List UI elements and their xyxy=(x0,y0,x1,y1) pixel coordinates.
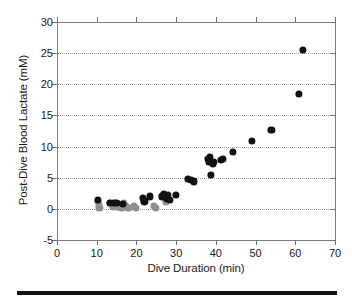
scatter-plot-figure: Post-Dive Blood Lactate (mM) Dive Durati… xyxy=(0,0,352,306)
plot-area xyxy=(57,22,335,240)
x-tick-label-0: 0 xyxy=(37,248,77,259)
x-tick-mark-10 xyxy=(97,240,98,245)
y-tick-label-15: 15 xyxy=(13,110,53,121)
data-point xyxy=(190,178,197,185)
y-tick-label-10: 10 xyxy=(13,142,53,153)
data-point xyxy=(248,137,255,144)
y-tick-label-20: 20 xyxy=(13,79,53,90)
x-tick-mark-50 xyxy=(256,240,257,245)
x-axis-title: Dive Duration (min) xyxy=(57,262,335,274)
x-tick-mark-0 xyxy=(57,240,58,245)
y-tick-mark-right-30 xyxy=(331,22,336,23)
x-tick-mark-20 xyxy=(136,240,137,245)
x-tick-label-60: 60 xyxy=(275,248,315,259)
data-point xyxy=(296,90,303,97)
x-tick-mark-top-30 xyxy=(176,17,177,22)
data-point xyxy=(152,204,159,211)
y-tick-mark-right-10 xyxy=(331,147,336,148)
data-point xyxy=(172,191,179,198)
y-tick-mark-right-15 xyxy=(331,115,336,116)
y-tick-label-5: 5 xyxy=(13,173,53,184)
x-tick-mark-top-0 xyxy=(57,17,58,22)
data-point xyxy=(146,193,153,200)
y-tick-label-0: 0 xyxy=(13,204,53,215)
gridline-y-10 xyxy=(57,147,335,148)
y-tick-mark-right-0 xyxy=(331,209,336,210)
gridline-y-30 xyxy=(57,22,335,23)
y-tick-mark-right-25 xyxy=(331,53,336,54)
y-tick-mark-right-5 xyxy=(331,178,336,179)
x-tick-mark-top-40 xyxy=(216,17,217,22)
gridline-y-20 xyxy=(57,84,335,85)
data-point xyxy=(96,204,103,211)
y-tick-label-25: 25 xyxy=(13,48,53,59)
gridline-y-15 xyxy=(57,115,335,116)
x-tick-label-40: 40 xyxy=(196,248,236,259)
x-axis-line xyxy=(56,240,336,241)
data-point xyxy=(229,148,236,155)
gridline-y-25 xyxy=(57,53,335,54)
y-tick-label--5: -5 xyxy=(13,235,53,246)
x-tick-mark-top-60 xyxy=(295,17,296,22)
data-point xyxy=(132,204,139,211)
data-point xyxy=(166,197,173,204)
x-tick-mark-top-20 xyxy=(136,17,137,22)
x-tick-mark-30 xyxy=(176,240,177,245)
x-tick-label-50: 50 xyxy=(236,248,276,259)
x-tick-mark-top-10 xyxy=(97,17,98,22)
x-tick-mark-60 xyxy=(295,240,296,245)
x-tick-mark-top-70 xyxy=(335,17,336,22)
data-point xyxy=(219,155,226,162)
x-tick-label-70: 70 xyxy=(315,248,352,259)
x-tick-mark-70 xyxy=(335,240,336,245)
x-tick-label-10: 10 xyxy=(77,248,117,259)
x-tick-mark-top-50 xyxy=(256,17,257,22)
y-tick-mark-right-20 xyxy=(331,84,336,85)
bottom-rule xyxy=(17,291,337,295)
x-tick-label-30: 30 xyxy=(156,248,196,259)
data-point xyxy=(268,126,275,133)
y-tick-label-30: 30 xyxy=(13,17,53,28)
x-tick-label-20: 20 xyxy=(116,248,156,259)
x-tick-mark-40 xyxy=(216,240,217,245)
